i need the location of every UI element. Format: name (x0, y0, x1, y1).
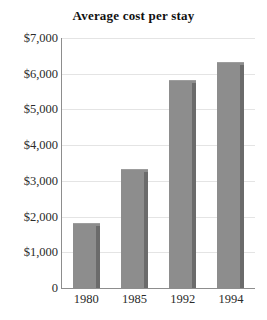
bar-shadow-edge (144, 172, 148, 288)
x-axis-tick-label: 1985 (110, 292, 158, 307)
y-axis-line (61, 38, 62, 289)
y-axis-tick-label: $4,000 (2, 139, 58, 151)
y-axis-tick-label: $2,000 (2, 211, 58, 223)
x-axis-tick-label: 1994 (207, 292, 255, 307)
y-axis-labels: $7,000$6,000$5,000$4,000$3,000$2,000$1,0… (0, 0, 58, 320)
bar-chart: Average cost per stay $7,000$6,000$5,000… (0, 0, 267, 320)
x-axis-tick-label: 1992 (159, 292, 207, 307)
bar (169, 81, 196, 288)
y-axis-tick-label: $1,000 (2, 246, 58, 258)
x-axis-tick-label: 1980 (62, 292, 110, 307)
bar (73, 224, 100, 288)
gridline (62, 38, 255, 39)
bar (121, 170, 148, 288)
x-axis-line (61, 288, 255, 289)
bar-shadow-edge (240, 65, 244, 288)
bar (217, 63, 244, 288)
y-axis-tick-label: $6,000 (2, 68, 58, 80)
y-axis-tick-label: $5,000 (2, 103, 58, 115)
plot-area (62, 38, 255, 288)
y-axis-tick-label: $7,000 (2, 32, 58, 44)
bar-shadow-edge (96, 226, 100, 288)
y-axis-tick-label: 0 (2, 282, 58, 294)
y-axis-tick-label: $3,000 (2, 175, 58, 187)
bar-shadow-edge (192, 83, 196, 288)
